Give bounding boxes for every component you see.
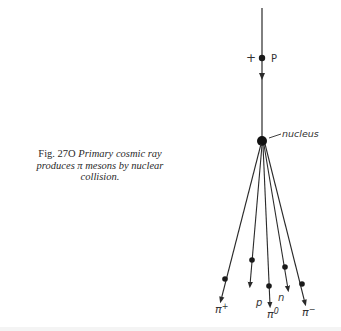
incoming-particle-label: P	[271, 53, 277, 64]
charge-sign: +	[246, 51, 256, 65]
track-pi-zero-dot	[266, 283, 272, 289]
track-pi-minus-dot	[299, 281, 305, 287]
nucleus-label: nucleus	[282, 128, 319, 139]
track-pi-plus-dot	[222, 276, 228, 282]
page-edge	[0, 327, 341, 331]
label-pi-minus: π−	[302, 305, 315, 319]
label-pi-zero: π0	[267, 307, 279, 321]
label-neutron: n	[278, 292, 284, 303]
collision-diagram: + P nucleus π+ p π0 n π−	[0, 0, 341, 331]
track-proton-dot	[249, 257, 255, 263]
incoming-arrow-icon	[259, 73, 265, 80]
incoming-proton-dot	[259, 55, 265, 61]
nucleus-pointer	[269, 134, 281, 138]
label-pi-minus-sup: −	[309, 305, 316, 314]
track-neutron-dot	[282, 264, 288, 270]
track-pi-zero	[263, 145, 270, 305]
label-pi-plus: π+	[215, 302, 228, 316]
outgoing-tracks	[221, 144, 305, 305]
track-pi-minus	[265, 144, 305, 303]
label-pi-zero-sup: 0	[274, 307, 279, 316]
label-proton: p	[255, 297, 262, 308]
track-proton	[250, 145, 262, 285]
label-pi-plus-sup: +	[222, 302, 229, 311]
